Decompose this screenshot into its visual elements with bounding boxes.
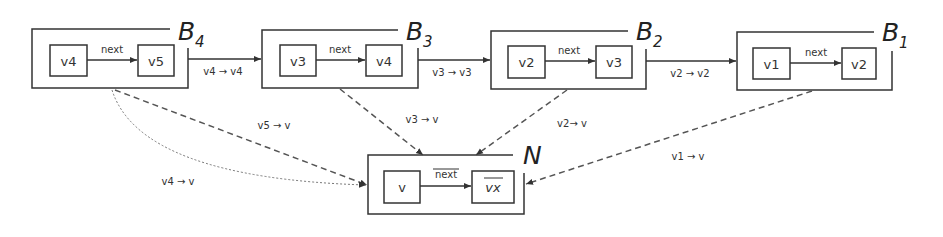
merge-edge-label: v5 → v <box>258 120 291 131</box>
block-b1-title: B <box>882 18 899 47</box>
merge-edge-label: v3 → v <box>406 114 439 125</box>
merge-edge-v5: v5 → v <box>115 90 367 185</box>
block-b3: B 3 v3 v4 next <box>262 17 433 88</box>
next-edge-label: next <box>101 44 123 55</box>
chain-edge-label: v4 → v4 <box>203 66 242 77</box>
node-v2-label: v2 <box>851 57 867 72</box>
node-v1-label: v1 <box>764 57 780 72</box>
block-b4-title: B <box>178 17 195 46</box>
chain-edge-label: v2 → v2 <box>670 68 709 79</box>
block-b3-title: B <box>406 17 423 46</box>
node-v3-label: v3 <box>606 55 622 70</box>
chain-edge-b3-b2: v3 → v3 <box>418 60 490 78</box>
block-b1-subscript: 1 <box>899 34 909 52</box>
block-b2-subscript: 2 <box>653 33 663 51</box>
block-b4: B 4 v4 v5 next <box>32 17 205 88</box>
node-v3-label: v3 <box>290 54 306 69</box>
block-n-title: N <box>523 141 542 170</box>
block-b1: B 1 v1 v2 next <box>737 18 909 90</box>
next-edge-label: next <box>329 44 351 55</box>
merge-edge-v4: v4 → v <box>112 90 366 187</box>
next-edge-label: next <box>558 45 580 56</box>
node-v2-label: v2 <box>519 55 535 70</box>
next-edge-label: next <box>805 47 827 58</box>
merge-edge-label: v2→ v <box>557 118 587 129</box>
chain-edge-label: v3 → v3 <box>432 67 471 78</box>
merge-edge-v1: v1 → v <box>526 91 812 184</box>
merge-edge-v3: v3 → v <box>340 89 439 155</box>
chain-edge-b4-b3: v4 → v4 <box>188 59 261 77</box>
node-v4-label: v4 <box>61 54 77 69</box>
block-b4-subscript: 4 <box>195 33 205 51</box>
next-bar-edge-label: next <box>435 169 457 180</box>
node-v5-label: v5 <box>148 54 164 69</box>
node-vx-label: vx <box>485 180 501 195</box>
block-n: N v vx next <box>368 141 542 214</box>
block-b2-title: B <box>636 17 653 46</box>
diagram-canvas: B 4 v4 v5 next B 3 v3 v4 next B 2 v2 v3 … <box>0 0 943 237</box>
node-v4-label: v4 <box>376 54 392 69</box>
merge-edge-label: v4 → v <box>162 176 195 187</box>
block-b3-subscript: 3 <box>423 33 433 51</box>
node-v-label: v <box>398 180 406 195</box>
merge-edge-label: v1 → v <box>672 151 705 162</box>
block-b2: B 2 v2 v3 next <box>491 17 663 89</box>
chain-edge-b2-b1: v2 → v2 <box>646 61 736 79</box>
